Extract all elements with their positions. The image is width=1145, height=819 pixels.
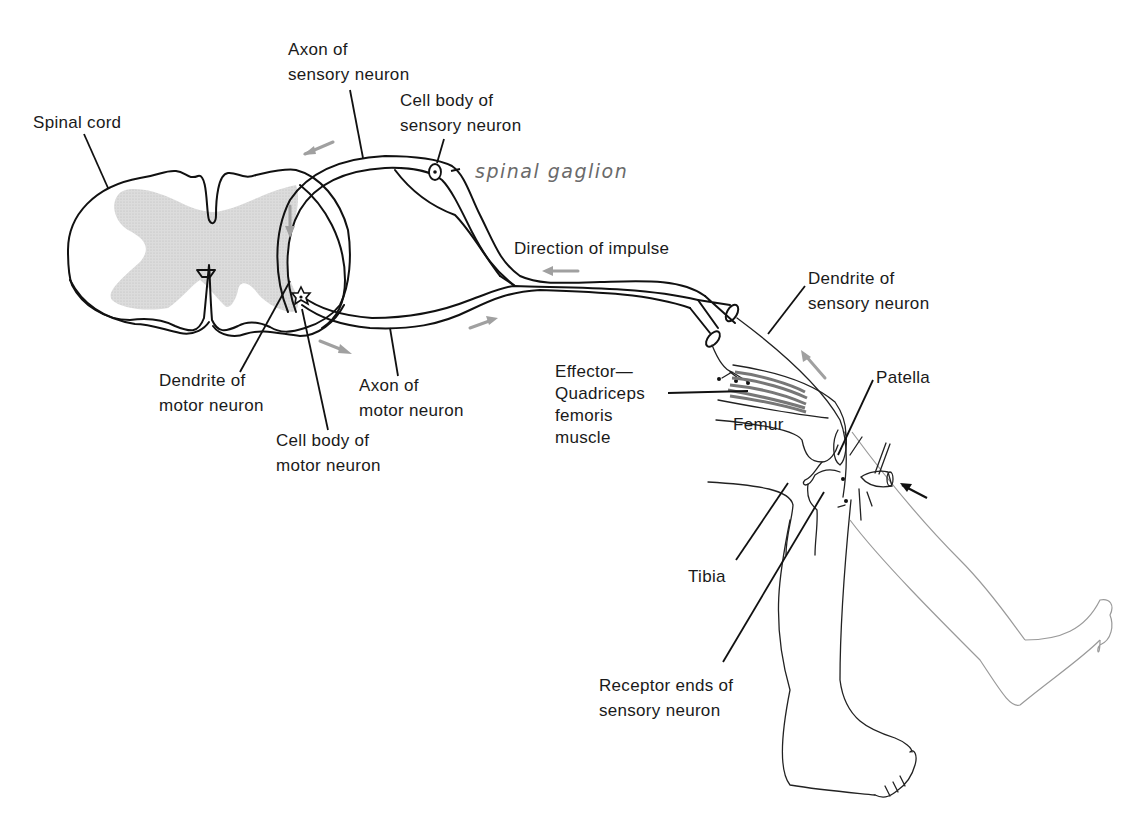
label-direction-of-impulse: Direction of impulse bbox=[514, 239, 669, 258]
reflex-arc-diagram: Spinal cord Axon ofsensory neuron Cell b… bbox=[0, 0, 1145, 819]
motor-nerve-to-muscle bbox=[712, 345, 748, 382]
label-patella: Patella bbox=[876, 368, 930, 387]
lower-leg-back bbox=[778, 520, 875, 795]
label-cell-body-motor: Cell body ofmotor neuron bbox=[276, 431, 381, 475]
label-tibia: Tibia bbox=[688, 567, 726, 586]
receptor-end-dot bbox=[841, 477, 845, 481]
junction bbox=[500, 276, 515, 286]
motor-neuron-outer bbox=[302, 290, 690, 328]
motor-neuron-inner bbox=[302, 286, 698, 318]
label-spinal-cord: Spinal cord bbox=[33, 113, 121, 132]
label-cell-body-sensory: Cell body ofsensory neuron bbox=[400, 91, 521, 135]
label-dendrite-motor: Dendrite ofmotor neuron bbox=[159, 371, 264, 415]
label-effector: Effector—Quadricepsfemorismuscle bbox=[555, 362, 645, 447]
label-femur: Femur bbox=[733, 415, 784, 434]
motor-nucleus bbox=[299, 295, 302, 298]
tibia bbox=[708, 482, 817, 555]
kicked-leg-lower bbox=[850, 520, 1100, 705]
receptor-end-dot bbox=[844, 499, 848, 503]
label-axon-sensory: Axon ofsensory neuron bbox=[288, 40, 409, 84]
knee-joint bbox=[803, 462, 840, 485]
label-dendrite-sensory: Dendrite ofsensory neuron bbox=[808, 269, 929, 313]
sensory-neuron-inner bbox=[287, 168, 515, 312]
gray-matter bbox=[111, 185, 298, 312]
label-receptor-ends: Receptor ends ofsensory neuron bbox=[599, 676, 733, 720]
spinal-cord-cross-section bbox=[68, 169, 350, 336]
label-spinal-ganglion: spinal gaglion bbox=[475, 160, 628, 182]
reflex-hammer bbox=[861, 443, 927, 498]
foot-hanging bbox=[875, 751, 916, 797]
kicked-foot bbox=[1025, 600, 1112, 652]
lower-leg-front bbox=[840, 500, 912, 752]
sensory-nucleus bbox=[433, 170, 437, 174]
label-axon-motor: Axon ofmotor neuron bbox=[359, 376, 464, 420]
